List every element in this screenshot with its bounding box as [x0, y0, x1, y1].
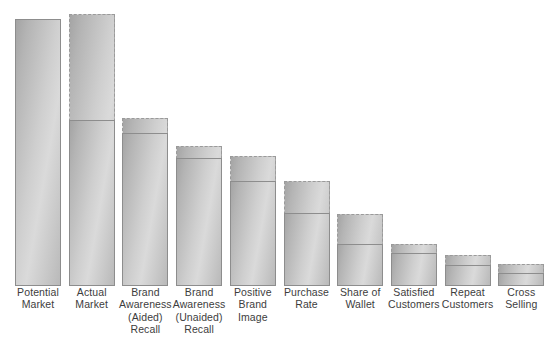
category-label: Potential Market	[8, 286, 68, 311]
bar-group	[337, 214, 383, 286]
category-axis-labels: Potential MarketActual MarketBrand Aware…	[0, 286, 553, 348]
bar-actual-segment	[498, 273, 544, 286]
bar-actual-segment	[69, 120, 115, 286]
bar-actual-segment	[391, 253, 437, 286]
bar-group	[498, 264, 544, 286]
bar-group	[284, 181, 330, 286]
bar-group	[122, 118, 168, 286]
bar-group	[15, 19, 61, 286]
bar-group	[230, 156, 276, 286]
bar-actual-segment	[176, 158, 222, 286]
bar-potential-segment	[15, 19, 61, 286]
bar-group	[176, 146, 222, 286]
bar-group	[391, 244, 437, 286]
category-label: Actual Market	[62, 286, 122, 311]
category-label: Satisfied Customers	[384, 286, 444, 311]
bar-group	[445, 255, 491, 286]
bar-actual-segment	[230, 181, 276, 286]
category-label: Positive Brand Image	[223, 286, 283, 323]
category-label: Cross Selling	[491, 286, 551, 311]
funnel-bar-chart: Potential MarketActual MarketBrand Aware…	[0, 0, 553, 348]
category-label: Brand Awareness (Unaided) Recall	[169, 286, 229, 336]
category-label: Brand Awareness (Aided) Recall	[115, 286, 175, 336]
bar-actual-segment	[122, 133, 168, 286]
plot-area	[0, 0, 553, 286]
category-label: Share of Wallet	[330, 286, 390, 311]
bar-actual-segment	[445, 265, 491, 286]
bar-group	[69, 14, 115, 286]
category-label: Repeat Customers	[438, 286, 498, 311]
category-label: Purchase Rate	[277, 286, 337, 311]
bar-actual-segment	[284, 213, 330, 286]
bar-actual-segment	[337, 244, 383, 286]
